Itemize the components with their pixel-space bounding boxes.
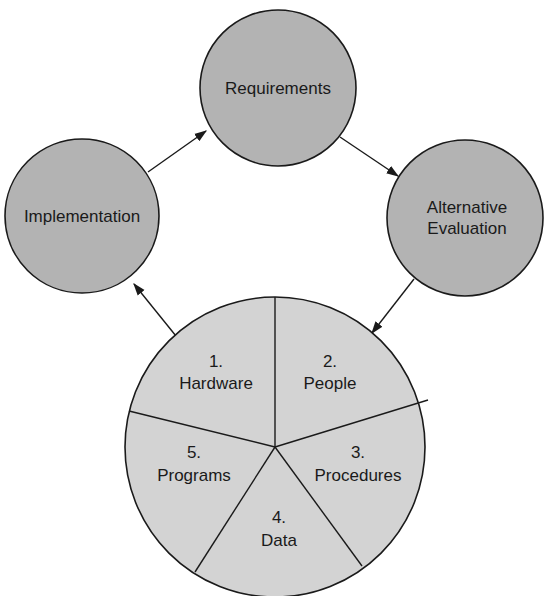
alternative-evaluation-node: Alternative Evaluation (387, 140, 543, 296)
people-label: People (304, 374, 357, 393)
hardware-label: Hardware (179, 374, 253, 393)
arrow-components-to-implementation (134, 284, 176, 336)
arrow-implementation-to-requirements (148, 131, 206, 172)
data-label: Data (261, 531, 297, 550)
components-pie: 1. Hardware 2. People 3. Procedures 4. D… (125, 297, 428, 596)
alternative-label-line1: Alternative (427, 198, 507, 217)
procedures-number: 3. (351, 443, 365, 462)
hardware-number: 1. (209, 352, 223, 371)
alternative-label-line2: Evaluation (427, 219, 506, 238)
people-number: 2. (323, 352, 337, 371)
requirements-node: Requirements (200, 10, 356, 166)
implementation-node: Implementation (5, 139, 159, 293)
programs-number: 5. (187, 443, 201, 462)
arrow-alternative-to-components (372, 279, 414, 333)
requirements-label: Requirements (225, 79, 331, 98)
cycle-diagram: Requirements Implementation Alternative … (0, 0, 548, 596)
implementation-label: Implementation (24, 207, 140, 226)
procedures-label: Procedures (315, 466, 402, 485)
data-number: 4. (272, 508, 286, 527)
arrow-requirements-to-alternative (340, 137, 398, 176)
programs-label: Programs (157, 466, 231, 485)
